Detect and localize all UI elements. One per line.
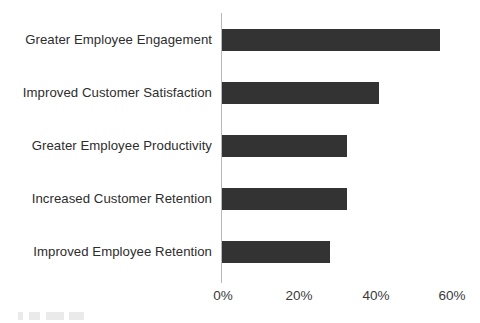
category-label: Greater Employee Engagement	[0, 13, 212, 66]
x-tick-label-0: 0%	[213, 288, 233, 303]
x-tick-label-20: 20%	[285, 288, 312, 303]
plot-area: Greater Employee Engagement Improved Cus…	[0, 0, 480, 323]
category-label: Greater Employee Productivity	[0, 119, 212, 172]
category-label: Improved Customer Satisfaction	[0, 66, 212, 119]
bar-improved-employee-retention	[222, 241, 330, 263]
cropped-caption-remnant	[18, 312, 84, 320]
bar-increased-customer-retention	[222, 188, 347, 210]
bar-row: Improved Employee Retention	[0, 225, 480, 278]
bar-row: Greater Employee Productivity	[0, 119, 480, 172]
x-axis-tick-labels: 0% 20% 40% 60%	[0, 288, 480, 308]
bar-row: Improved Customer Satisfaction	[0, 66, 480, 119]
x-tick-label-60: 60%	[438, 288, 465, 303]
bar-chart: Greater Employee Engagement Improved Cus…	[0, 0, 480, 323]
bar-greater-employee-engagement	[222, 29, 440, 51]
bar-row: Increased Customer Retention	[0, 172, 480, 225]
bar-row: Greater Employee Engagement	[0, 13, 480, 66]
category-label: Improved Employee Retention	[0, 225, 212, 278]
bar-improved-customer-satisfaction	[222, 82, 379, 104]
x-tick-label-40: 40%	[362, 288, 389, 303]
bar-greater-employee-productivity	[222, 135, 347, 157]
category-label: Increased Customer Retention	[0, 172, 212, 225]
